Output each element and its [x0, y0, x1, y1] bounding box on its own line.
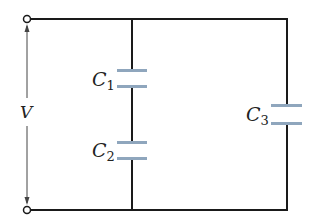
c1-label: C1	[92, 68, 115, 93]
top-terminal-icon	[24, 16, 31, 23]
c2-plate-bottom	[117, 157, 147, 160]
capacitor-c2	[117, 141, 147, 160]
c2-plate-top	[117, 141, 147, 144]
voltage-label: V	[20, 102, 34, 122]
c3-plate-top	[271, 104, 302, 107]
c2-label: C2	[92, 139, 115, 164]
capacitor-c3	[271, 104, 302, 125]
capacitor-c1	[117, 69, 147, 88]
c1-plate-top	[117, 69, 147, 72]
circuit-diagram: V C1 C2 C3	[0, 0, 317, 224]
bottom-terminal-icon	[24, 207, 31, 214]
c1-plate-bottom	[117, 85, 147, 88]
c3-label: C3	[246, 103, 269, 128]
c3-plate-bottom	[271, 122, 302, 125]
